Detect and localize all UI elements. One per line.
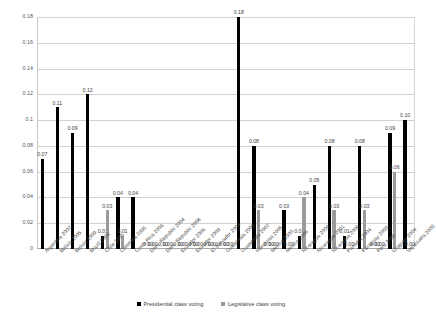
y-axis-tick-label: 0: [3, 246, 33, 251]
y-axis-tick-label: 0.1: [3, 117, 33, 122]
bar-group: 0.000.00: [370, 17, 385, 249]
bar-group: 0.18: [234, 17, 249, 249]
y-axis-tick-label: 0.06: [3, 169, 33, 174]
bar-value-label: 0.12: [81, 88, 94, 93]
bar-value-label: 0.09: [66, 126, 79, 131]
y-axis-tick-label: 0.14: [3, 66, 33, 71]
bar-group: 0.000.00: [158, 17, 173, 249]
legend-entry[interactable]: Presidential class voting: [137, 300, 204, 307]
bar-group: 0.010.04: [294, 17, 309, 249]
bar-group: 0.000.00: [173, 17, 188, 249]
bar-group: 0.010.03: [97, 17, 112, 249]
bar-group: 0.080.03: [355, 17, 370, 249]
bar-group: 0.090.06: [385, 17, 400, 249]
bar-group: 0.04: [128, 17, 143, 249]
y-axis-tick-label: 0.02: [3, 221, 33, 226]
bar-group: 0.030.00: [279, 17, 294, 249]
chart-legend: Presidential class votingLegislative cla…: [0, 300, 422, 307]
bar-value-label: 0.07: [36, 152, 49, 157]
bar-group: 0.010.00: [339, 17, 354, 249]
bar[interactable]: [71, 133, 74, 249]
bar-value-label: 0.11: [51, 101, 64, 106]
bar-group: 0.07: [37, 17, 52, 249]
y-axis-tick-label: 0.16: [3, 40, 33, 45]
bar-value-label: 0.03: [277, 204, 290, 209]
bar[interactable]: [86, 94, 89, 249]
bar-value-label: 0.04: [111, 191, 124, 196]
bar-group: 0.000.00: [218, 17, 233, 249]
legend-label: Legislative class voting: [228, 301, 285, 307]
bar-group: 0.100.00: [400, 17, 415, 249]
bar-value-label: 0.18: [232, 10, 245, 15]
x-axis-labels: Argentina 2007Bolivia 2005Bolivia 2009Br…: [37, 250, 415, 296]
bar[interactable]: [237, 17, 240, 249]
bar-value-label: 0.08: [353, 139, 366, 144]
y-axis-tick-label: 0.04: [3, 195, 33, 200]
bar-group: 0.09: [67, 17, 82, 249]
bar-group: 0.000.00: [143, 17, 158, 249]
legend-label: Presidential class voting: [143, 301, 203, 307]
bar-group: 0.12: [82, 17, 97, 249]
legend-entry[interactable]: Legislative class voting: [221, 300, 285, 307]
bar[interactable]: [56, 107, 59, 249]
bar-value-label: 0.04: [126, 191, 139, 196]
bar-group: 0.11: [52, 17, 67, 249]
legend-swatch-icon: [221, 302, 225, 306]
y-axis-tick-label: 0.08: [3, 143, 33, 148]
y-axis-tick-label: 0.18: [3, 14, 33, 19]
bar[interactable]: [41, 159, 44, 249]
bar-value-label: 0.10: [398, 113, 411, 118]
bar-group: 0.080.03: [249, 17, 264, 249]
bar-value-label: 0.08: [323, 139, 336, 144]
bar-group: 0.05: [309, 17, 324, 249]
bar-value-label: 0.08: [247, 139, 260, 144]
bar-group: 0.040.01: [113, 17, 128, 249]
bar-group: 0.000.00: [188, 17, 203, 249]
bar-group: 0.000.00: [203, 17, 218, 249]
bar-value-label: 0.09: [383, 126, 396, 131]
bar-group: 0.080.03: [324, 17, 339, 249]
y-axis: 00.020.040.060.080.10.120.140.160.18: [0, 17, 33, 249]
legend-swatch-icon: [137, 302, 141, 306]
bar-value-label: 0.05: [308, 178, 321, 183]
bar-group: 0.000.00: [264, 17, 279, 249]
y-axis-tick-label: 0.12: [3, 92, 33, 97]
bar[interactable]: [403, 120, 406, 249]
bar[interactable]: [302, 197, 305, 249]
bars-layer: 0.070.110.090.120.010.030.040.010.040.00…: [37, 17, 415, 249]
